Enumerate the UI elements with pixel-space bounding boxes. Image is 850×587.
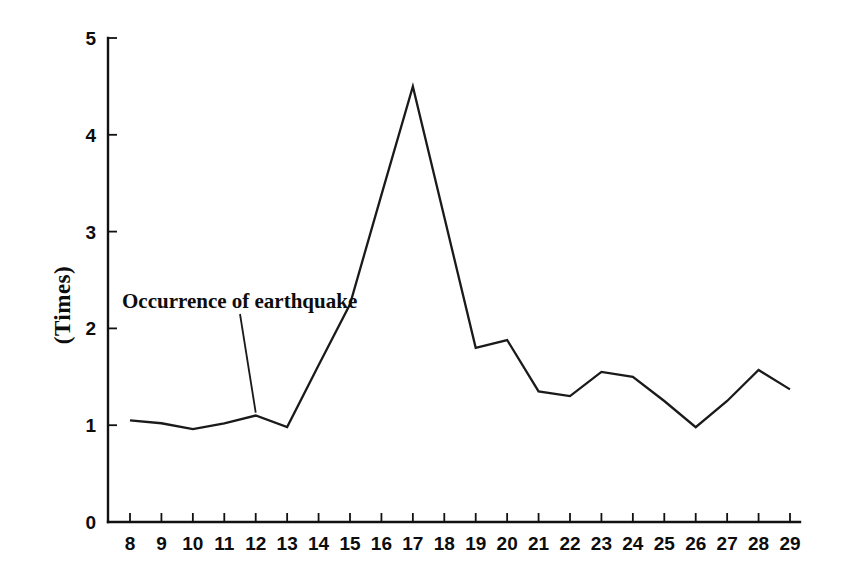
x-tick-label: 18 [434,533,455,554]
chart-figure: (Times) 012345 8910111213141516171819202… [0,0,850,587]
x-tick-group [130,513,790,522]
y-tick-label: 1 [85,415,96,436]
x-tick-label: 23 [591,533,612,554]
x-tick-label: 15 [339,533,361,554]
y-axis-label: (Times) [50,266,75,344]
y-tick-group [108,38,117,522]
line-chart: (Times) 012345 8910111213141516171819202… [0,0,850,587]
x-tick-label: 8 [125,533,136,554]
x-tick-label: 9 [156,533,167,554]
x-tick-label: 20 [497,533,518,554]
y-tick-label: 4 [85,125,96,146]
x-tick-label: 17 [402,533,423,554]
x-tick-label: 24 [622,533,644,554]
y-tick-label: 2 [85,318,96,339]
annotation-label: Occurrence of earthquake [122,289,357,313]
annotation-leader-line [240,314,256,413]
x-tick-label: 29 [779,533,800,554]
x-tick-label: 21 [528,533,550,554]
x-tick-label: 25 [654,533,676,554]
x-tick-label: 13 [277,533,298,554]
x-tick-label: 28 [748,533,769,554]
data-series-line [130,86,790,429]
y-tick-label-group: 012345 [85,28,96,533]
x-tick-label: 27 [717,533,738,554]
x-tick-label: 10 [182,533,203,554]
x-tick-label: 22 [559,533,580,554]
x-tick-label: 14 [308,533,330,554]
x-tick-label: 11 [214,533,235,554]
x-tick-label-group: 8910111213141516171819202122232425262728… [125,533,801,554]
y-tick-label: 0 [85,512,96,533]
y-tick-label: 5 [85,28,96,49]
x-tick-label: 12 [245,533,266,554]
x-tick-label: 26 [685,533,706,554]
x-tick-label: 19 [465,533,486,554]
y-tick-label: 3 [85,222,96,243]
x-tick-label: 16 [371,533,392,554]
